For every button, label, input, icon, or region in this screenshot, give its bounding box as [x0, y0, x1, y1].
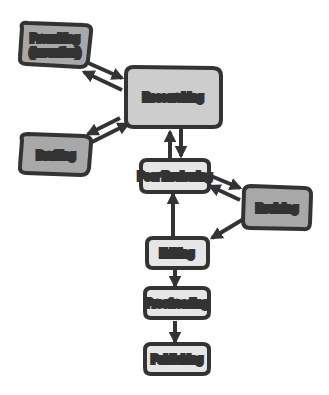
- node-researching: Researching: [126, 67, 221, 127]
- node-proofreading: Proofreading: [145, 288, 209, 318]
- node-label: Prewriting: [31, 33, 80, 44]
- node-drafting: Drafting: [20, 134, 91, 175]
- node-label: Drafting: [37, 150, 75, 161]
- node-peer-reviewing: Peer Reviewing: [138, 160, 212, 192]
- arrow-peer-reviewing-to-revising: [211, 176, 240, 188]
- arrow-drafting-to-researching: [92, 124, 128, 142]
- node-label: Proofreading: [146, 298, 208, 309]
- node-label: Editing: [160, 248, 194, 259]
- node-publishing: Publishing: [145, 344, 209, 374]
- node-label: Researching: [143, 92, 203, 103]
- node-prewriting: Prewriting (Invention): [20, 23, 91, 67]
- node-label: Publishing: [151, 354, 202, 365]
- node-editing: Editing: [147, 238, 208, 268]
- writing-process-diagram: Prewriting (Invention) Researching Draft…: [0, 0, 329, 395]
- node-label: Peer Reviewing: [138, 171, 212, 182]
- arrow-revising-to-editing: [212, 220, 242, 238]
- node-label: Revising: [256, 203, 298, 214]
- node-revising: Revising: [243, 186, 311, 229]
- node-label: (Invention): [29, 47, 80, 58]
